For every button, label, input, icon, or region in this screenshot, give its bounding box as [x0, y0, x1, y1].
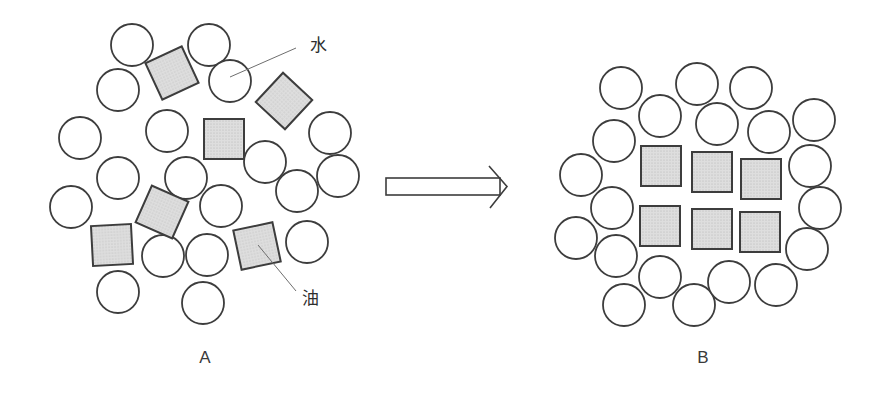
arrow-shaft: [386, 178, 500, 195]
water-molecule: [209, 60, 251, 102]
oil-particle: [692, 209, 732, 249]
oil-particle: [204, 119, 244, 159]
water-molecule: [676, 63, 718, 105]
oil-label: 油: [302, 289, 319, 308]
water-molecule: [59, 117, 101, 159]
water-molecule: [748, 111, 790, 153]
water-label: 水: [310, 36, 327, 55]
oil-particle: [640, 206, 680, 246]
water-molecule: [639, 95, 681, 137]
water-molecule: [142, 235, 184, 277]
water-molecule: [560, 154, 602, 196]
oil-particle: [91, 224, 133, 266]
oil-particle: [233, 222, 280, 269]
panel-a-label: A: [199, 348, 211, 367]
oil-particle: [641, 146, 681, 186]
panel-b-cluster: [555, 63, 841, 326]
water-molecule: [286, 221, 328, 263]
water-molecule: [639, 256, 681, 298]
water-molecule: [595, 235, 637, 277]
water-molecule: [555, 217, 597, 259]
water-molecule: [673, 284, 715, 326]
water-molecule: [696, 103, 738, 145]
oil-particle: [256, 73, 313, 130]
water-molecule: [182, 282, 224, 324]
water-molecule: [97, 271, 139, 313]
water-molecule: [317, 155, 359, 197]
diagram: 水 油 A B: [0, 0, 886, 393]
water-molecule: [200, 185, 242, 227]
diagram-canvas: 水 油 A B: [0, 0, 886, 393]
water-molecule: [600, 67, 642, 109]
water-molecule: [789, 145, 831, 187]
water-molecule: [50, 186, 92, 228]
water-molecule: [276, 170, 318, 212]
water-molecule: [730, 67, 772, 109]
transform-arrow-icon: [386, 166, 507, 208]
water-molecule: [97, 69, 139, 111]
oil-particle: [741, 159, 781, 199]
water-molecule: [146, 110, 188, 152]
water-molecule: [165, 157, 207, 199]
water-molecule: [309, 112, 351, 154]
water-molecule: [786, 228, 828, 270]
oil-particle: [740, 212, 780, 252]
water-molecule: [97, 157, 139, 199]
oil-particle: [692, 152, 732, 192]
water-molecule: [591, 187, 633, 229]
water-molecule: [603, 284, 645, 326]
water-molecule: [708, 261, 750, 303]
water-molecule: [244, 141, 286, 183]
water-molecule: [111, 24, 153, 66]
water-molecule: [593, 120, 635, 162]
water-molecule: [793, 99, 835, 141]
water-molecule: [186, 234, 228, 276]
water-molecule: [799, 187, 841, 229]
water-molecule: [188, 24, 230, 66]
panel-a-mixture: [50, 24, 359, 324]
panel-b-label: B: [697, 348, 708, 367]
water-molecule: [755, 264, 797, 306]
